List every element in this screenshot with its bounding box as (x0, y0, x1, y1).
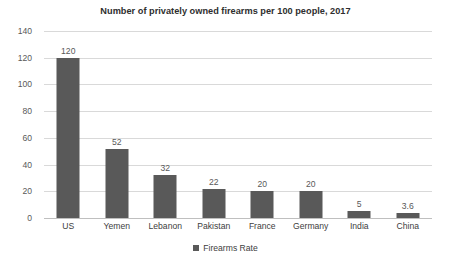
bar[interactable] (251, 191, 274, 218)
bar[interactable] (57, 58, 80, 218)
x-axis-category-label: Yemen (104, 221, 130, 231)
bar-value-label: 22 (209, 177, 219, 187)
bar-slot: 22 (190, 31, 239, 218)
y-axis-tick-label: 120 (2, 53, 32, 63)
x-axis-category-label: Germany (293, 221, 328, 231)
x-axis-category-label: India (350, 221, 369, 231)
bar-slot: 52 (93, 31, 142, 218)
y-axis-tick-label: 140 (2, 26, 32, 36)
bar-slot: 120 (44, 31, 93, 218)
bar-value-label: 20 (257, 179, 267, 189)
bar-value-label: 3.6 (402, 201, 414, 211)
y-axis-tick-label: 0 (2, 213, 32, 223)
bar[interactable] (105, 149, 128, 218)
y-axis-tick-label: 40 (2, 160, 32, 170)
y-axis-tick-label: 80 (2, 106, 32, 116)
bar-value-label: 20 (306, 179, 316, 189)
bar-value-label: 32 (160, 163, 170, 173)
bar-slot: 20 (238, 31, 287, 218)
x-axis-category-label: Pakistan (197, 221, 230, 231)
bar[interactable] (348, 211, 371, 218)
bar-slot: 20 (287, 31, 336, 218)
bar[interactable] (202, 189, 225, 218)
bar-slot: 32 (141, 31, 190, 218)
bar-chart: Number of privately owned firearms per 1… (0, 0, 451, 269)
y-axis-tick-label: 20 (2, 186, 32, 196)
x-axis-category-label: US (62, 221, 74, 231)
y-axis-tick-label: 60 (2, 133, 32, 143)
bar-value-label: 5 (357, 199, 362, 209)
bar-value-label: 52 (112, 137, 122, 147)
bars-layer: 120523222202053.6 (44, 31, 432, 218)
bar-slot: 3.6 (384, 31, 433, 218)
x-axis-category-label: Lebanon (149, 221, 182, 231)
axis-baseline (44, 218, 432, 219)
y-axis-tick-label: 100 (2, 79, 32, 89)
x-axis: USYemenLebanonPakistanFranceGermanyIndia… (44, 221, 432, 239)
legend-label-firearms-rate: Firearms Rate (203, 243, 257, 253)
bar[interactable] (299, 191, 322, 218)
legend-swatch-firearms-rate (193, 245, 199, 251)
bar[interactable] (396, 213, 419, 218)
x-axis-category-label: France (249, 221, 276, 231)
x-axis-category-label: China (397, 221, 419, 231)
chart-legend: Firearms Rate (0, 243, 451, 253)
chart-title: Number of privately owned firearms per 1… (0, 6, 451, 16)
bar-value-label: 120 (61, 46, 75, 56)
bar[interactable] (154, 175, 177, 218)
bar-slot: 5 (335, 31, 384, 218)
